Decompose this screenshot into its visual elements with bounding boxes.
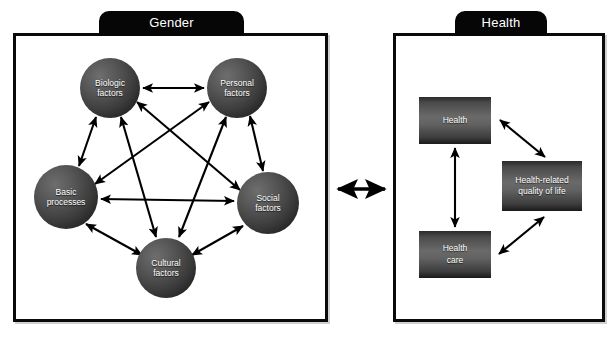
node-health: Health <box>419 97 491 144</box>
node-basic-processes: Basic processes <box>34 165 98 229</box>
gender-tab-label: Gender <box>149 16 194 29</box>
node-personal-factors-line2: factors <box>220 88 254 98</box>
node-personal-factors: Personal factors <box>207 58 267 118</box>
diagram-canvas: Gender Health Biologic factors Personal … <box>0 0 616 337</box>
health-tab-label: Health <box>482 16 521 29</box>
node-basic-processes-line2: processes <box>47 197 86 207</box>
node-health-care-line2: care <box>443 255 468 266</box>
node-biologic-factors-line1: Biologic <box>95 78 125 88</box>
node-cultural-factors: Cultural factors <box>136 238 196 298</box>
node-health-related-quality-of-life: Health-related quality of life <box>502 161 582 211</box>
node-social-factors-line2: factors <box>255 203 281 213</box>
node-biologic-factors: Biologic factors <box>80 58 140 118</box>
health-panel-tab: Health <box>455 11 547 36</box>
node-health-care-line1: Health <box>443 243 468 254</box>
node-biologic-factors-line2: factors <box>95 88 125 98</box>
gender-panel-tab: Gender <box>99 11 244 36</box>
node-hrqol-line2: quality of life <box>515 186 568 197</box>
node-health-care: Health care <box>419 231 491 278</box>
node-cultural-factors-line1: Cultural <box>151 258 180 268</box>
node-personal-factors-line1: Personal <box>220 78 254 88</box>
node-health-line1: Health <box>443 115 468 126</box>
node-hrqol-line1: Health-related <box>515 175 568 186</box>
node-cultural-factors-line2: factors <box>151 268 180 278</box>
node-basic-processes-line1: Basic <box>47 187 86 197</box>
node-social-factors: Social factors <box>237 172 299 234</box>
node-social-factors-line1: Social <box>255 193 281 203</box>
